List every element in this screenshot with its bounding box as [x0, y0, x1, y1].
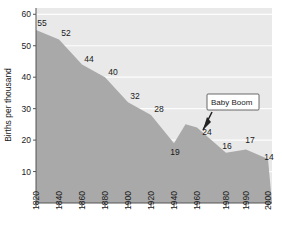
x-axis-tick-label: 1920 [146, 191, 156, 210]
births-per-thousand-area-chart: 102030405060 182018401860188019001920194… [0, 0, 282, 245]
data-point-label: 16 [222, 141, 232, 151]
y-axis-tick-label: 10 [22, 167, 32, 177]
data-point-label: 28 [154, 104, 164, 114]
x-axis-tick-label: 2000 [263, 191, 273, 210]
callout-label: Baby Boom [211, 98, 253, 107]
x-axis-tick-label: 1960 [192, 191, 202, 210]
data-point-label: 17 [245, 135, 255, 145]
y-axis-tick-label: 60 [22, 9, 32, 19]
x-axis-tick-label: 1940 [169, 191, 179, 210]
chart-svg: 102030405060 182018401860188019001920194… [0, 0, 282, 245]
data-point-label: 32 [130, 91, 140, 101]
x-axis-tick-label: 1990 [241, 191, 251, 210]
data-point-label: 19 [170, 147, 180, 157]
data-point-label: 52 [61, 28, 71, 38]
y-axis-tick-label: 30 [22, 104, 32, 114]
x-axis-tick-label: 1980 [221, 191, 231, 210]
y-axis-title: Births per thousand [3, 68, 13, 142]
y-axis-tick-label: 50 [22, 41, 32, 51]
x-axis-tick-label: 1880 [100, 191, 110, 210]
y-axis-tick-label: 40 [22, 72, 32, 82]
data-point-label: 55 [37, 18, 47, 28]
data-point-label: 44 [84, 54, 94, 64]
y-axis: 102030405060 [22, 9, 36, 176]
y-axis-tick-label: 20 [22, 135, 32, 145]
x-axis-tick-label: 1900 [123, 191, 133, 210]
data-point-label: 40 [108, 67, 118, 77]
x-axis-tick-label: 1840 [54, 191, 64, 210]
x-axis-tick-label: 1820 [31, 191, 41, 210]
x-axis-tick-label: 1860 [77, 191, 87, 210]
data-point-label: 14 [264, 152, 274, 162]
